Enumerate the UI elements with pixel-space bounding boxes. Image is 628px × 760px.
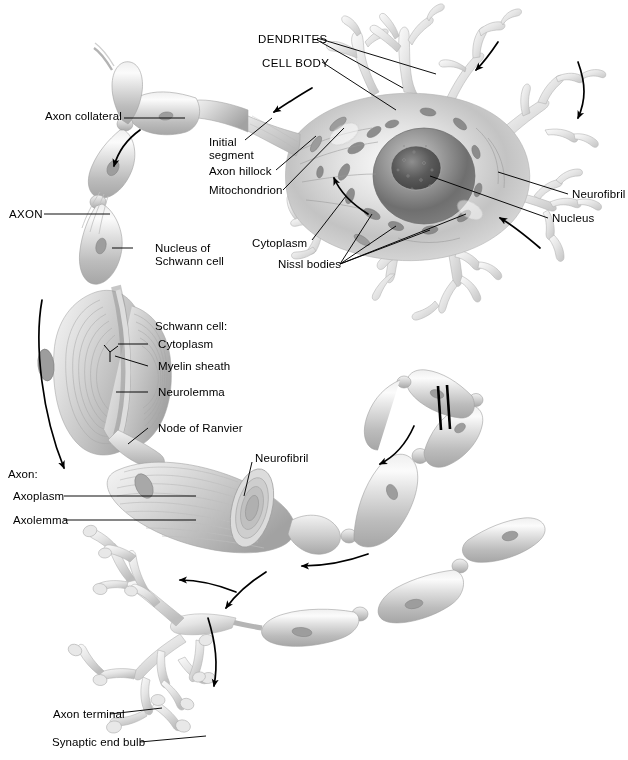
cell-body-group <box>286 4 606 320</box>
arrow-terminal-upper <box>180 580 236 592</box>
label-axon-hillock: Axon hillock <box>209 165 272 178</box>
label-axoplasm: Axoplasm <box>13 490 64 503</box>
dendrites-group <box>286 4 606 320</box>
label-myelin-sheath: Myelin sheath <box>158 360 230 373</box>
axon-cutaway-group <box>107 462 357 554</box>
neuron-diagram-figure: DENDRITES CELL BODY Axon collateral Init… <box>0 0 628 760</box>
label-dendrites: DENDRITES <box>258 33 328 46</box>
label-nucleus-of-schwann-cell-line2: Schwann cell <box>155 255 224 268</box>
label-schwann-cytoplasm: Cytoplasm <box>158 338 213 351</box>
label-mitochondrion: Mitochondrion <box>209 184 283 197</box>
label-axon-collateral: Axon collateral <box>45 110 122 123</box>
label-nucleus: Nucleus <box>552 212 594 225</box>
label-axon-heading: Axon: <box>8 468 38 481</box>
label-cytoplasm-soma: Cytoplasm <box>252 237 307 250</box>
arrow-cell-body-to-axon <box>274 88 312 112</box>
label-schwann-cell-heading: Schwann cell: <box>155 320 227 333</box>
label-initial-segment-line1: Initial <box>209 136 237 149</box>
arrow-dendrite-lower-right <box>500 218 540 248</box>
label-node-of-ranvier: Node of Ranvier <box>158 422 243 435</box>
axon-hillock-group <box>190 100 300 156</box>
label-nissl-bodies: Nissl bodies <box>278 258 341 271</box>
label-cell-body: CELL BODY <box>262 57 329 70</box>
arrow-axon-lower-right <box>302 554 368 566</box>
label-initial-segment-line2: segment <box>209 149 254 162</box>
label-neurofibril-soma: Neurofibril <box>572 188 626 201</box>
label-axon: AXON <box>9 208 43 221</box>
label-nucleus-of-schwann-cell-line1: Nucleus of <box>155 242 210 255</box>
label-synaptic-end-bulb: Synaptic end bulb <box>52 736 145 749</box>
label-neurofibril-axon: Neurofibril <box>255 452 309 465</box>
label-axon-terminal: Axon terminal <box>53 708 125 721</box>
label-neurolemma: Neurolemma <box>158 386 225 399</box>
arrow-dendrite-far-right <box>578 62 584 118</box>
unrolled-myelin-group <box>36 286 171 469</box>
label-axolemma: Axolemma <box>13 514 68 527</box>
